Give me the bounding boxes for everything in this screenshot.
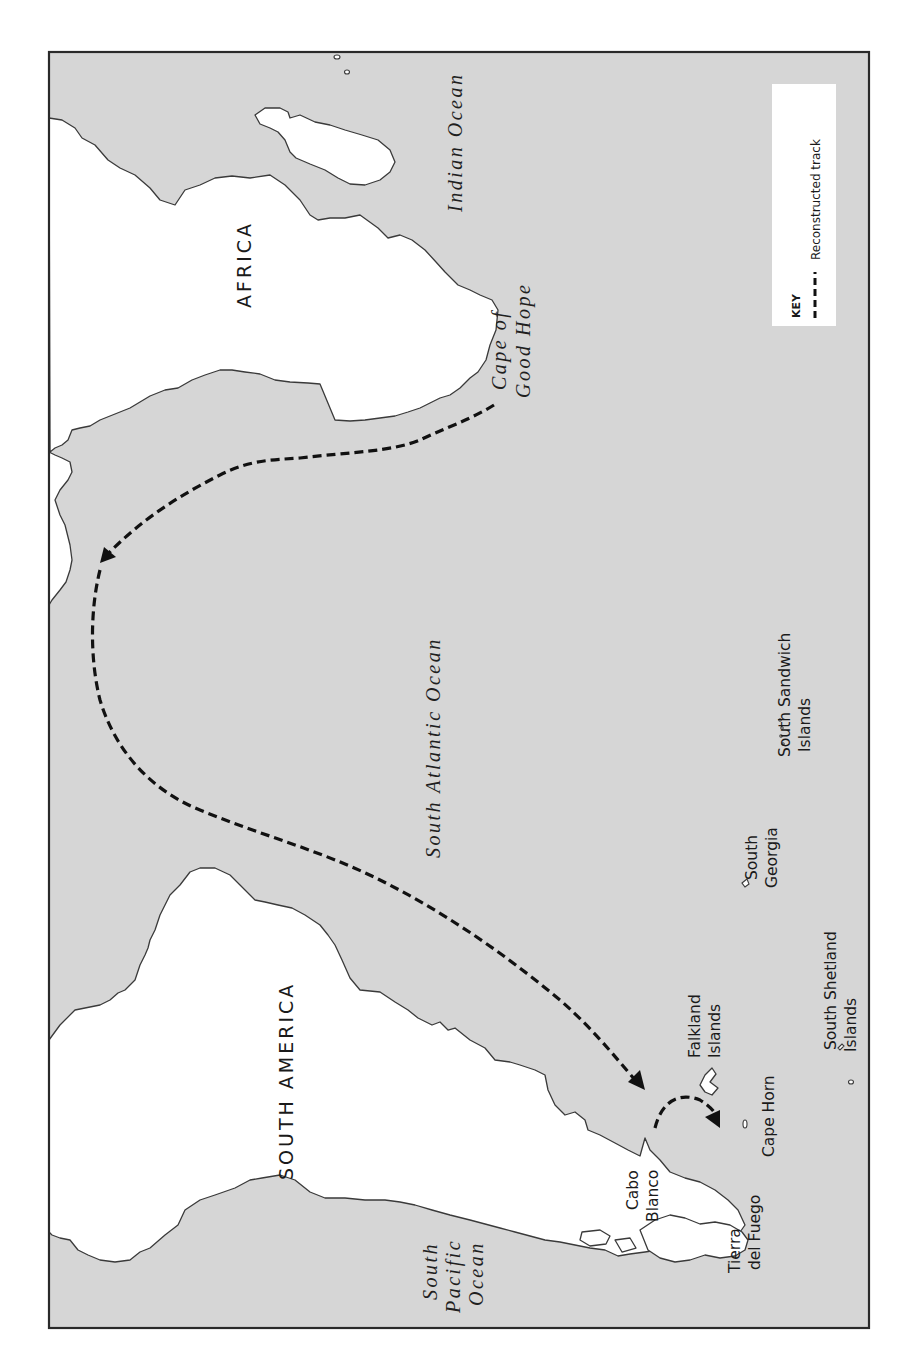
label-south-america: SOUTH AMERICA [275,982,297,1180]
label-cape-of-good-hope-line1: Cape of [488,310,511,390]
label-south-pacific-line1: South [419,1242,441,1300]
label-south-georgia-line2: Georgia [763,827,781,888]
label-south-georgia-line1: South [743,835,761,880]
south-shetland-island [849,1080,854,1084]
label-south-pacific-line3: Ocean [465,1241,487,1306]
label-falkland-islands-line1: Falkland [686,994,704,1058]
key-box [772,84,836,326]
label-cape-of-good-hope-line2: Good Hope [512,283,535,398]
label-south-pacific-line2: Pacific [442,1239,465,1314]
label-south-sandwich-line2: Islands [796,698,814,752]
label-cabo-blanco-line1: Cabo [624,1170,642,1210]
label-south-sandwich-line1: South Sandwich [776,633,794,757]
islet [334,55,340,59]
label-africa: AFRICA [233,221,255,308]
label-cabo-blanco-line2: Blanco [644,1170,662,1222]
label-south-atlantic-ocean: South Atlantic Ocean [422,637,444,858]
label-indian-ocean: Indian Ocean [444,73,466,213]
label-south-shetland-line1: South Shetland [822,931,840,1050]
label-tierra-del-fuego-line2: del Fuego [746,1195,764,1270]
label-tierra-del-fuego-line1: Tierra [726,1228,744,1274]
islet [345,70,350,74]
label-cape-horn: Cape Horn [760,1075,778,1157]
key-title: KEY [790,293,803,318]
key-label-reconstructed-track: Reconstructed track [809,139,823,260]
label-south-shetland-line2: Islands [842,998,860,1052]
label-falkland-islands-line2: Islands [706,1004,724,1058]
map-key: KEY Reconstructed track [772,84,836,326]
voyage-map: KEY Reconstructed track AFRICA SOUTH AME… [0,0,910,1371]
cape-horn-islet [743,1120,747,1128]
